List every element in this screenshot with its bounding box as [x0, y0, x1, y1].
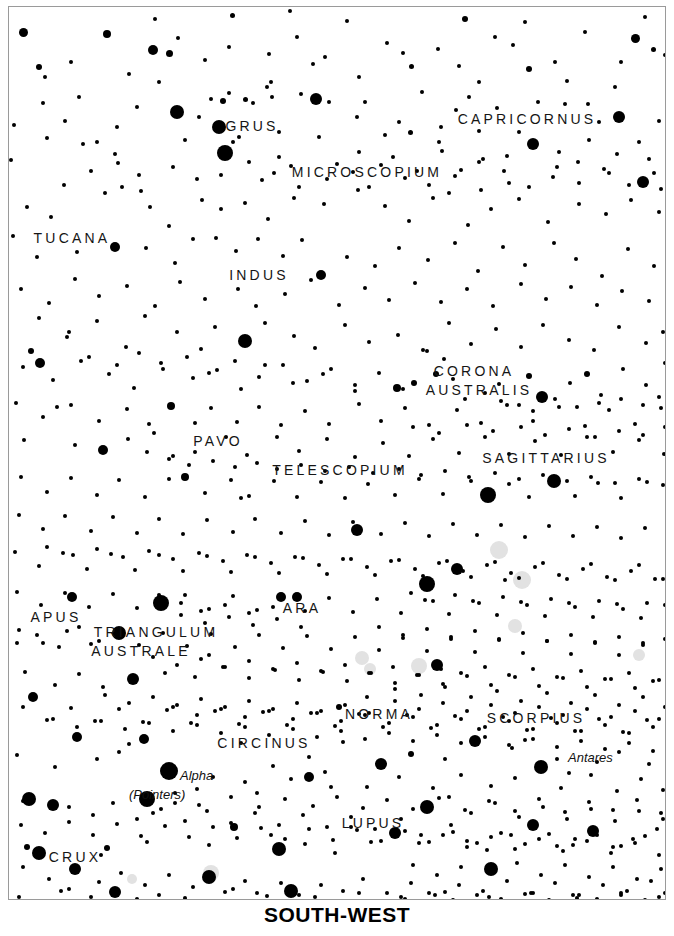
star-label-alpha: Alpha	[180, 769, 213, 782]
constellation-label-scorpius: SCORPIUS	[487, 711, 586, 725]
star-marker	[665, 651, 666, 655]
star-marker	[665, 535, 666, 539]
constellation-label-norma: NORMA	[345, 707, 413, 721]
star-marker	[665, 725, 666, 729]
constellation-label-lupus: LUPUS	[342, 816, 405, 830]
star-marker	[665, 841, 666, 845]
constellation-label-grus: GRUS	[225, 119, 278, 133]
star-label-pointers: (Pointers)	[129, 788, 185, 801]
sky-map-frame: GRUSCAPRICORNUSMICROSCOPIUMTUCANAINDUSCO…	[8, 6, 666, 900]
constellation-label-australe: AUSTRALE	[91, 644, 191, 658]
constellation-label-circinus: CIRCINUS	[217, 736, 310, 750]
constellation-label-ara: ARA	[283, 601, 321, 615]
label-layer: GRUSCAPRICORNUSMICROSCOPIUMTUCANAINDUSCO…	[9, 7, 665, 899]
constellation-label-pavo: PAVO	[193, 434, 243, 448]
star-marker	[665, 92, 666, 96]
star-chart: GRUSCAPRICORNUSMICROSCOPIUMTUCANAINDUSCO…	[0, 0, 674, 936]
star-label-antares: Antares	[568, 751, 613, 764]
constellation-label-capricornus: CAPRICORNUS	[458, 112, 597, 126]
constellation-label-corona: CORONA	[434, 364, 515, 378]
star-marker	[665, 494, 666, 498]
constellation-label-apus: APUS	[31, 610, 82, 624]
star-marker	[665, 609, 666, 613]
compass-direction-label: SOUTH-WEST	[0, 903, 674, 927]
constellation-label-telescopium: TELESCOPIUM	[272, 463, 408, 477]
constellation-label-triangulum: TRIANGULUM	[94, 625, 219, 639]
constellation-label-crux: CRUX	[49, 850, 101, 864]
constellation-label-microscopium: MICROSCOPIUM	[292, 165, 442, 179]
constellation-label-australis: AUSTRALIS	[426, 383, 533, 397]
constellation-label-sagittarius: SAGITTARIUS	[482, 451, 610, 465]
constellation-label-tucana: TUCANA	[34, 231, 111, 245]
constellation-label-indus: INDUS	[229, 268, 289, 282]
